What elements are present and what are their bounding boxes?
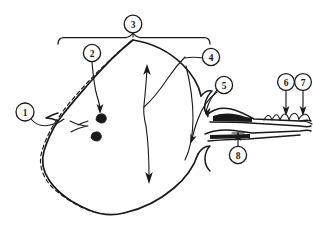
- callout-3[interactable]: 3: [124, 15, 142, 33]
- callout-3-label: 3: [131, 20, 136, 30]
- leader-line-4: [185, 57, 203, 58]
- callout-1-label: 1: [23, 108, 28, 118]
- callout-4-label: 4: [209, 53, 214, 63]
- center-double-arrow: [143, 57, 185, 184]
- tail-group: [205, 108, 312, 141]
- callout-7[interactable]: 7: [295, 74, 312, 91]
- body-outline-left-cusp: [46, 113, 58, 121]
- inner-flank-curve: [185, 66, 193, 160]
- leader-line-2: [92, 62, 100, 110]
- callout-5-label: 5: [222, 81, 227, 91]
- callout-8-label: 8: [236, 151, 241, 161]
- center-arrow-shaft: [144, 70, 149, 176]
- tail-second-solid: [210, 134, 250, 139]
- callout-1[interactable]: 1: [16, 103, 34, 121]
- chevron-mark: [70, 121, 88, 132]
- callout-8[interactable]: 8: [229, 146, 246, 163]
- tail-second-shaft-upper: [205, 130, 311, 134]
- body-outline-left-lower: [43, 40, 133, 215]
- callout-2-label: 2: [90, 49, 95, 59]
- callout-5[interactable]: 5: [215, 76, 232, 93]
- inner-marks-group: [70, 114, 106, 141]
- tail-lower-edge: [210, 122, 311, 127]
- center-arrow-branch: [144, 57, 185, 107]
- span-bracket-group: [58, 33, 210, 44]
- body-outline-right-lower: [124, 154, 198, 213]
- callout-2[interactable]: 2: [83, 44, 100, 61]
- figure-root: 1 2 3 4 5 6: [0, 0, 313, 234]
- line-drawing-canvas: 1 2 3 4 5 6: [0, 0, 313, 234]
- callout-6[interactable]: 6: [278, 74, 295, 91]
- callout-7-label: 7: [301, 78, 306, 88]
- leader-lines-group: [31, 33, 306, 146]
- callout-4[interactable]: 4: [202, 48, 219, 65]
- flank-notch-lower: [198, 146, 210, 171]
- callout-6-label: 6: [284, 78, 289, 88]
